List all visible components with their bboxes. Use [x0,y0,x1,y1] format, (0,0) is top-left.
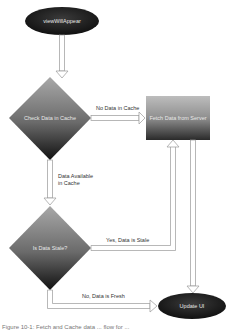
arrow-check-to-fetch [91,112,145,124]
figure-caption: Figure 10-1: Fetch and Cache data ... fl… [2,324,129,330]
update-ui-node-label: Update UI [180,303,205,309]
check-cache-node-label: Check Data in Cache [24,115,76,121]
arrow-stale-to-fetch [91,140,179,251]
start-node-label: viewWillAppear [43,18,81,24]
arrow-fetch-to-update [187,140,199,293]
is-stale-node-label: Is Data Stale? [33,245,68,251]
arrow-check-to-stale [44,160,56,205]
edge-label-in-cache: in Cache [58,180,80,187]
arrow-start-to-check [56,35,68,78]
edge-label-stale: Yes, Data is Stale [106,237,149,244]
flowchart-canvas: viewWillAppear Check Data in Cache Fetch… [0,0,230,330]
flowchart-svg [0,0,230,330]
edge-label-data-available: Data Available [58,173,93,180]
edge-label-fresh: No, Data is Fresh [82,293,125,300]
fetch-node-label: Fetch Data from Server [149,115,206,121]
edge-label-no-data: No Data in Cache [96,105,139,112]
